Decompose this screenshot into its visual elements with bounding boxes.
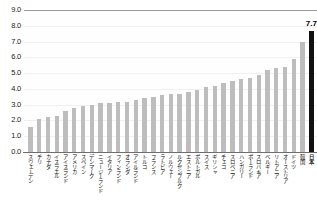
x-tick-slot: オランダ	[123, 154, 132, 212]
bar-slot	[289, 10, 298, 152]
bar	[177, 94, 181, 152]
bar-slot	[87, 10, 96, 152]
bar-slot	[281, 10, 290, 152]
x-tick-label: 日本	[309, 154, 315, 212]
bar	[248, 78, 252, 152]
x-tick-label: ニュージーランド	[98, 154, 104, 212]
bar-slot	[167, 10, 176, 152]
bar	[90, 105, 94, 152]
x-tick-slot: ポルトガル	[193, 154, 202, 212]
bar-slot	[79, 10, 88, 152]
x-tick-label: フランス	[151, 154, 157, 212]
x-tick-label: ポーランド	[247, 154, 253, 212]
bar-slot	[70, 10, 79, 152]
bar-slot	[228, 10, 237, 152]
x-tick-slot: スロベニア	[228, 154, 237, 212]
x-tick-label: カナダ	[45, 154, 51, 212]
x-tick-slot: チェコ	[219, 154, 228, 212]
x-tick-slot: フランス	[149, 154, 158, 212]
y-tick-label: 3.0	[11, 101, 21, 109]
x-tick-slot: デンマーク	[87, 154, 96, 212]
bar	[116, 102, 120, 152]
bar	[274, 68, 278, 152]
x-tick-label: ハンガリー	[239, 154, 245, 212]
bar-slot	[123, 10, 132, 152]
bar-slot	[237, 10, 246, 152]
y-tick-label: 2.0	[11, 117, 21, 125]
x-tick-label: チェコ	[221, 154, 227, 212]
bar	[134, 100, 138, 152]
x-tick-slot: ノルウェー	[167, 154, 176, 212]
x-tick-slot: 日本	[307, 154, 316, 212]
bar-slot	[272, 10, 281, 152]
bar-slot	[35, 10, 44, 152]
x-tick-slot: ポーランド	[246, 154, 255, 212]
bar	[283, 67, 287, 152]
x-tick-slot: ベルギー	[263, 154, 272, 212]
bar	[98, 103, 102, 152]
x-tick-slot: アイルランド	[131, 154, 140, 212]
x-tick-label: ルクセンブルク	[177, 154, 183, 212]
bar	[55, 116, 59, 152]
bar	[230, 81, 234, 152]
bar-slot	[193, 10, 202, 152]
x-tick-slot: ギリシャ	[210, 154, 219, 212]
bar-slot	[61, 10, 70, 152]
bar-slot	[175, 10, 184, 152]
x-tick-slot: ラトビア	[158, 154, 167, 212]
y-tick-label: 1.0	[11, 132, 21, 140]
bar	[37, 119, 41, 152]
x-tick-slot: スウェーデン	[26, 154, 35, 212]
x-tick-label: エストニア	[186, 154, 192, 212]
bar	[239, 79, 243, 152]
bar	[265, 70, 269, 152]
bar	[213, 86, 217, 152]
x-tick-label: チリ	[37, 154, 43, 212]
bar-slot	[140, 10, 149, 152]
bar-slot	[105, 10, 114, 152]
x-tick-label: アイルランド	[133, 154, 139, 212]
bar	[81, 106, 85, 152]
bar-slot	[298, 10, 307, 152]
x-tick-slot: スイス	[202, 154, 211, 212]
x-tick-slot: スペイン	[79, 154, 88, 212]
x-tick-label: ポルトガル	[195, 154, 201, 212]
bar	[186, 92, 190, 152]
x-tick-slot: イスラエル	[52, 154, 61, 212]
bar-value-label: 7.7	[306, 20, 317, 28]
x-tick-slot: オーストリア	[281, 154, 290, 212]
bar-slot	[26, 10, 35, 152]
x-tick-slot: スロバキア	[254, 154, 263, 212]
x-tick-label: スイス	[203, 154, 209, 212]
bar	[221, 83, 225, 152]
bar	[72, 108, 76, 152]
bar	[160, 95, 164, 152]
x-tick-slot: 韓国	[298, 154, 307, 212]
x-tick-slot: トルコ	[140, 154, 149, 212]
bar-slot	[219, 10, 228, 152]
x-tick-label: ギリシャ	[212, 154, 218, 212]
x-tick-label: オーストリア	[282, 154, 288, 212]
bar	[300, 42, 304, 152]
bar-slot	[96, 10, 105, 152]
y-tick-label: 7.0	[11, 38, 21, 46]
bar-slot	[52, 10, 61, 152]
bar	[46, 117, 50, 152]
y-tick-label: 0.0	[11, 148, 21, 156]
y-tick-label: 9.0	[11, 6, 21, 14]
plot-top-border	[24, 10, 317, 11]
x-tick-label: ラトビア	[160, 154, 166, 212]
x-tick-slot: エストニア	[184, 154, 193, 212]
bar-slot	[246, 10, 255, 152]
bar	[142, 98, 146, 152]
bar	[195, 90, 199, 152]
x-tick-label: ノルウェー	[168, 154, 174, 212]
x-tick-label: スロベニア	[230, 154, 236, 212]
x-tick-label: アイスランド	[63, 154, 69, 212]
bar-slot	[114, 10, 123, 152]
x-tick-slot: ハンガリー	[237, 154, 246, 212]
x-tick-label: 韓国	[300, 154, 306, 212]
bar-series: 7.7	[24, 10, 317, 152]
bar-slot	[263, 10, 272, 152]
bar-slot	[158, 10, 167, 152]
